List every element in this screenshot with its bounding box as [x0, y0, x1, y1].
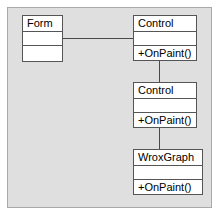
diagram-canvas: Form Control +OnPaint() Control +OnPaint…: [0, 0, 220, 216]
uml-operations-control-top: +OnPaint(): [134, 46, 196, 61]
uml-operations-control-middle: +OnPaint(): [134, 113, 196, 128]
uml-attributes-form: [23, 32, 62, 46]
uml-attributes-control-top: [134, 32, 196, 46]
connector-control-to-control: [159, 61, 160, 82]
uml-class-name-control-top: Control: [134, 16, 196, 32]
uml-class-name-wroxgraph: WroxGraph: [134, 150, 202, 166]
connector-form-to-control: [63, 38, 133, 39]
uml-class-form[interactable]: Form: [22, 15, 63, 62]
uml-class-name-control-middle: Control: [134, 83, 196, 99]
uml-class-name-form: Form: [23, 16, 62, 32]
uml-attributes-control-middle: [134, 99, 196, 113]
uml-operations-wroxgraph: +OnPaint(): [134, 180, 202, 195]
uml-class-control-middle[interactable]: Control +OnPaint(): [133, 82, 197, 128]
uml-operations-form: [23, 46, 62, 61]
uml-class-wroxgraph[interactable]: WroxGraph +OnPaint(): [133, 149, 203, 195]
uml-attributes-wroxgraph: [134, 166, 202, 180]
uml-class-control-top[interactable]: Control +OnPaint(): [133, 15, 197, 61]
connector-control-to-wroxgraph: [159, 128, 160, 149]
